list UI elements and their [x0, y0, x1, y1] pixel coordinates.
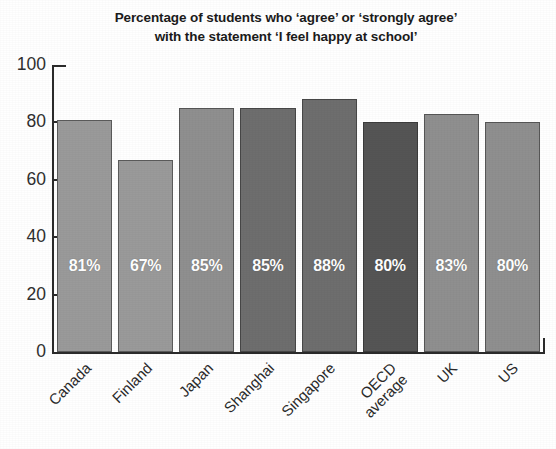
x-axis-right-cap [543, 338, 545, 354]
y-tick-label-40: 40 [2, 228, 46, 245]
plot-area: 020406080100 81%67%85%85%88%80%83%80% [52, 65, 545, 354]
bar-shanghai[interactable]: 85% [240, 108, 295, 352]
chart-title: Percentage of students who ‘agree’ or ‘s… [36, 8, 536, 46]
y-tick-label-60: 60 [2, 171, 46, 188]
chart-title-line-1: Percentage of students who ‘agree’ or ‘s… [115, 10, 458, 25]
bar-oecd-average[interactable]: 80% [363, 122, 418, 352]
x-axis-category-labels: CanadaFinlandJapanShanghaiSingaporeOECDa… [52, 356, 545, 449]
bar-us[interactable]: 80% [485, 122, 540, 352]
bar-canada[interactable]: 81% [57, 120, 112, 352]
bar-value-label: 85% [180, 257, 233, 275]
x-label-line-1: Shanghai [220, 359, 277, 416]
bar-chart: Percentage of students who ‘agree’ or ‘s… [0, 0, 556, 449]
bar-japan[interactable]: 85% [179, 108, 234, 352]
bar-finland[interactable]: 67% [118, 160, 173, 352]
bar-value-label: 67% [119, 257, 172, 275]
bar-value-label: 81% [58, 257, 111, 275]
bar-singapore[interactable]: 88% [302, 99, 357, 352]
x-label-line-1: US [495, 359, 522, 386]
bar-value-label: 80% [486, 257, 539, 275]
x-label-line-1: Canada [45, 359, 94, 408]
bar-series: 81%67%85%85%88%80%83%80% [54, 65, 543, 352]
x-label-line-1: UK [434, 359, 461, 386]
bar-value-label: 85% [241, 257, 294, 275]
bar-value-label: 88% [303, 257, 356, 275]
bar-value-label: 83% [425, 257, 478, 275]
y-tick-label-80: 80 [2, 113, 46, 130]
x-axis-line [52, 352, 545, 354]
bar-uk[interactable]: 83% [424, 114, 479, 352]
bar-value-label: 80% [364, 257, 417, 275]
x-label-line-1: Finland [108, 359, 155, 406]
x-label-line-1: Japan [175, 359, 216, 400]
y-tick-label-20: 20 [2, 286, 46, 303]
y-tick-label-100: 100 [2, 56, 46, 73]
chart-title-line-2: with the statement ‘I feel happy at scho… [36, 27, 536, 46]
x-label-line-1: Singapore [278, 359, 338, 419]
y-tick-label-0: 0 [2, 343, 46, 360]
